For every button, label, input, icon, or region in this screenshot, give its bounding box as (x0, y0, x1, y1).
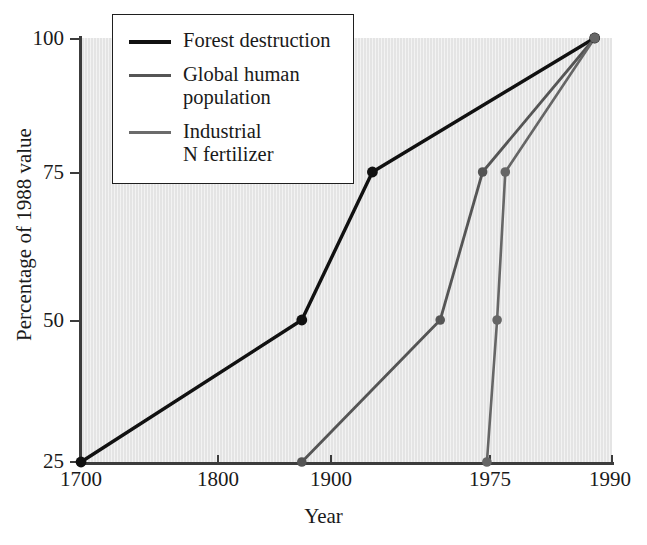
legend-entry-fertilizer: Industrial N fertilizer (129, 120, 353, 166)
legend: Forest destruction Global human populati… (112, 14, 354, 184)
legend-swatch-fertilizer (129, 131, 171, 134)
legend-swatch-forest (129, 40, 171, 44)
y-tick-25 (70, 461, 79, 463)
x-tick-1700 (80, 455, 82, 464)
chart-figure: 100 75 50 25 1700 1800 1900 1975 1990 Ye… (0, 0, 647, 545)
x-tick-1900 (330, 455, 332, 464)
x-tick-label-1700: 1700 (36, 467, 126, 492)
y-tick-75 (70, 172, 79, 174)
legend-entry-population: Global human population (129, 63, 353, 109)
legend-label-forest: Forest destruction (183, 29, 330, 52)
y-axis-title: Percentage of 1988 value (12, 45, 37, 425)
legend-swatch-population (129, 74, 171, 77)
legend-label-population: Global human population (183, 63, 300, 109)
x-axis-title: Year (0, 504, 647, 529)
x-axis-line (79, 462, 614, 465)
y-tick-50 (70, 320, 79, 322)
x-tick-label-1900: 1900 (286, 467, 376, 492)
x-tick-label-1800: 1800 (173, 467, 263, 492)
legend-entry-forest: Forest destruction (129, 29, 353, 52)
y-tick-100 (70, 38, 79, 40)
x-tick-label-1975: 1975 (445, 467, 535, 492)
x-tick-1975 (489, 455, 491, 464)
x-tick-1990 (611, 455, 613, 464)
x-tick-1800 (217, 455, 219, 464)
y-axis-line (79, 36, 82, 465)
x-tick-label-1990: 1990 (565, 467, 647, 492)
legend-label-fertilizer: Industrial N fertilizer (183, 120, 274, 166)
